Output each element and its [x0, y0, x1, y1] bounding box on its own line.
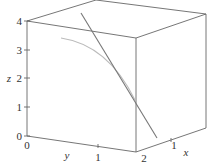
z-tick-label: 0	[17, 130, 23, 142]
z-axis-label: z	[6, 72, 12, 84]
curve-series	[61, 38, 135, 100]
z-tick-label: 1	[17, 101, 23, 113]
3d-plot: 4 3 2 1 0 z 0 1 2 y 1 x	[0, 0, 210, 164]
y-tick-label: 0	[24, 139, 30, 151]
y-axis-label: y	[64, 149, 70, 161]
bounding-box	[27, 0, 206, 152]
z-tick-label: 2	[17, 72, 23, 84]
y-tick-label: 1	[95, 151, 101, 163]
x-axis-label: x	[183, 146, 189, 158]
x-tick-label: 1	[171, 139, 177, 151]
line-series	[81, 13, 157, 138]
z-tick-label: 4	[17, 15, 23, 27]
y-tick-label: 2	[141, 152, 147, 164]
z-tick-label: 3	[17, 44, 23, 56]
